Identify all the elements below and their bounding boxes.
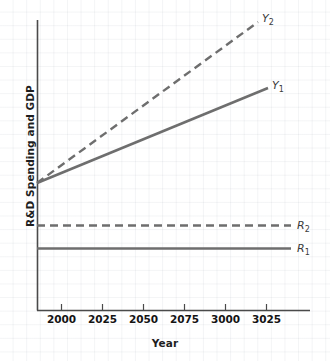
series-line-y1 xyxy=(37,88,268,183)
series-label-r1-sub: 1 xyxy=(305,248,310,257)
x-axis-ticks xyxy=(62,304,267,311)
x-tick-label-3025: 3025 xyxy=(244,313,290,325)
x-tick-label-2025: 2025 xyxy=(80,313,126,325)
x-axis-title: Year xyxy=(0,337,330,349)
series-line-y2 xyxy=(37,22,258,183)
series-label-r1-text: R xyxy=(297,242,305,255)
series-label-y1-text: Y xyxy=(272,79,279,92)
x-tick-label-3000: 3000 xyxy=(203,313,249,325)
x-tick-label-2000: 2000 xyxy=(39,313,85,325)
series-label-y2-sub: 2 xyxy=(269,18,274,27)
series-label-y2-text: Y xyxy=(262,12,269,25)
series-label-y1: Y1 xyxy=(272,79,284,92)
chart-container: R&D Spending and GDP Year 2000 2025 2050… xyxy=(0,0,330,361)
y-axis-title: R&D Spending and GDP xyxy=(24,66,36,246)
series-label-r2-text: R xyxy=(297,219,305,232)
series-label-r2-sub: 2 xyxy=(305,225,310,234)
x-tick-label-2050: 2050 xyxy=(121,313,167,325)
series-label-r2: R2 xyxy=(297,219,310,232)
plot-area xyxy=(0,0,330,361)
series-label-r1: R1 xyxy=(297,242,310,255)
x-tick-label-2075: 2075 xyxy=(162,313,208,325)
series-label-y2: Y2 xyxy=(262,12,274,25)
series-label-y1-sub: 1 xyxy=(279,85,284,94)
